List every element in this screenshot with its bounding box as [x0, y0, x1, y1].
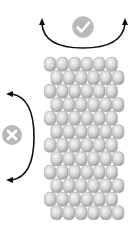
bead: [112, 125, 124, 139]
bead: [106, 192, 118, 206]
bead: [88, 98, 100, 112]
bead: [81, 192, 93, 206]
bead: [88, 152, 100, 166]
bead: [76, 152, 88, 166]
bead: [69, 84, 81, 98]
bead: [44, 165, 56, 179]
bead: [76, 98, 88, 112]
arrowhead-top-left: [39, 18, 45, 25]
bead: [57, 165, 68, 179]
bead: [69, 111, 81, 125]
bead: [81, 84, 93, 98]
arrowhead-top-right: [122, 18, 128, 25]
bead: [57, 84, 68, 98]
bead: [100, 152, 112, 166]
bead: [51, 98, 63, 112]
bead: [81, 165, 93, 179]
bead: [112, 71, 124, 85]
bead: [100, 71, 112, 85]
bead: [112, 179, 124, 193]
bead: [88, 71, 100, 85]
bead-diagram: [0, 0, 133, 227]
bead: [51, 152, 63, 166]
bead: [57, 192, 68, 206]
bead: [76, 71, 88, 85]
bead: [112, 206, 124, 220]
bead: [94, 84, 106, 98]
check-icon: [73, 17, 94, 38]
bead: [69, 192, 81, 206]
bead: [63, 179, 74, 193]
bead: [100, 125, 112, 139]
bead: [63, 98, 74, 112]
bead: [94, 138, 106, 152]
cross-icon: [2, 125, 22, 145]
bead: [51, 179, 63, 193]
bead: [63, 71, 74, 85]
bead: [51, 125, 63, 139]
bead: [44, 192, 56, 206]
bead: [100, 206, 112, 220]
bead: [88, 179, 100, 193]
bead: [76, 206, 88, 220]
bead: [44, 138, 56, 152]
arrowhead-left-top: [6, 91, 13, 97]
bead: [63, 206, 74, 220]
bead: [94, 57, 106, 71]
bead-grid: [44, 57, 124, 219]
bead: [57, 111, 68, 125]
bead: [57, 138, 68, 152]
bead: [76, 179, 88, 193]
bead: [106, 84, 118, 98]
bead: [112, 98, 124, 112]
bead: [44, 57, 56, 71]
bead: [106, 138, 118, 152]
bead: [76, 125, 88, 139]
bead: [94, 192, 106, 206]
bead: [81, 111, 93, 125]
bead: [81, 138, 93, 152]
bead: [106, 165, 118, 179]
bead: [106, 57, 118, 71]
bead: [69, 138, 81, 152]
bead: [44, 84, 56, 98]
bead: [100, 179, 112, 193]
arrowhead-left-bottom: [6, 177, 13, 183]
bead: [94, 165, 106, 179]
bead: [100, 98, 112, 112]
bead: [69, 57, 81, 71]
bead: [57, 57, 68, 71]
bead: [63, 125, 74, 139]
bead: [51, 71, 63, 85]
bead: [106, 111, 118, 125]
bead: [112, 152, 124, 166]
bead: [88, 206, 100, 220]
bead: [63, 152, 74, 166]
bead: [81, 57, 93, 71]
bead: [94, 111, 106, 125]
bead: [51, 206, 63, 220]
bead: [88, 125, 100, 139]
bead: [44, 111, 56, 125]
bead: [69, 165, 81, 179]
